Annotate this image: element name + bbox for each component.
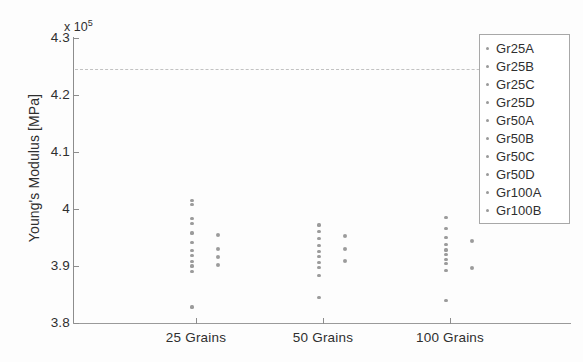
data-point	[216, 247, 220, 251]
y-tick-label-wrap: 4	[20, 201, 70, 217]
data-point	[444, 236, 447, 239]
legend-marker-dot-icon	[486, 83, 489, 86]
legend-item-gr50d[interactable]: Gr50D	[480, 165, 569, 183]
y-tick-mark	[74, 323, 79, 324]
legend-item-label: Gr25B	[496, 59, 534, 74]
data-point	[190, 203, 193, 206]
data-point	[444, 262, 447, 265]
legend-item-label: Gr25D	[496, 95, 535, 110]
data-point	[444, 227, 447, 230]
x-axis-line	[73, 323, 571, 324]
y-axis-line	[73, 37, 74, 324]
x-tick-label: 50 Grains	[263, 330, 383, 345]
scatter-chart-figure: x 105 Young's Modulus [MPa] 3.83.944.14.…	[0, 0, 583, 362]
y-tick-label: 4.3	[26, 30, 70, 45]
y-tick-label-wrap: 4.3	[20, 30, 70, 46]
legend-item-gr50b[interactable]: Gr50B	[480, 129, 569, 147]
data-point	[216, 233, 220, 237]
data-point	[317, 237, 320, 240]
legend-marker-dot-icon	[486, 191, 489, 194]
data-point	[317, 223, 320, 226]
legend-item-gr100b[interactable]: Gr100B	[480, 201, 569, 219]
y-tick-mark	[74, 266, 79, 267]
y-tick-mark	[74, 152, 79, 153]
y-tick-mark	[74, 209, 79, 210]
legend-item-gr50a[interactable]: Gr50A	[480, 111, 569, 129]
y-tick-label: 4	[26, 201, 70, 216]
data-point	[317, 261, 320, 264]
legend-item-label: Gr100A	[496, 185, 541, 200]
data-point	[317, 266, 320, 269]
data-point	[444, 269, 447, 272]
legend-item-gr25b[interactable]: Gr25B	[480, 57, 569, 75]
legend-marker-dot-icon	[486, 155, 489, 158]
x-tick-label: 100 Grains	[390, 330, 510, 345]
legend-item-gr25c[interactable]: Gr25C	[480, 75, 569, 93]
legend-item-gr100a[interactable]: Gr100A	[480, 183, 569, 201]
data-point	[470, 239, 474, 243]
data-point	[190, 270, 193, 273]
data-point	[470, 266, 474, 270]
data-point	[190, 305, 193, 308]
data-point	[317, 274, 320, 277]
y-axis-exponent-power: 5	[88, 18, 93, 28]
legend-marker-dot-icon	[486, 101, 489, 104]
data-point	[444, 216, 447, 219]
data-point	[190, 264, 193, 267]
y-tick-label: 3.9	[26, 258, 70, 273]
legend-marker-dot-icon	[486, 65, 489, 68]
data-point	[190, 254, 193, 257]
y-tick-label-wrap: 4.2	[20, 87, 70, 103]
y-tick-label-wrap: 4.1	[20, 144, 70, 160]
data-point	[216, 263, 220, 267]
legend-marker-dot-icon	[486, 47, 489, 50]
x-tick-label: 25 Grains	[136, 330, 256, 345]
legend-marker-dot-icon	[486, 173, 489, 176]
x-tick-mark	[450, 318, 451, 324]
legend-box[interactable]: Gr25AGr25BGr25CGr25DGr50AGr50BGr50CGr50D…	[479, 34, 570, 224]
data-point	[444, 253, 447, 256]
data-point	[317, 250, 320, 253]
data-point	[317, 296, 320, 299]
legend-marker-dot-icon	[486, 137, 489, 140]
y-tick-mark	[74, 38, 79, 39]
data-point	[190, 241, 193, 244]
data-point	[190, 222, 193, 225]
data-point	[317, 255, 320, 258]
data-point	[444, 243, 447, 246]
y-tick-label-wrap: 3.8	[20, 315, 70, 331]
legend-item-gr50c[interactable]: Gr50C	[480, 147, 569, 165]
legend-item-gr25d[interactable]: Gr25D	[480, 93, 569, 111]
data-point	[216, 255, 220, 259]
legend-item-label: Gr25C	[496, 77, 535, 92]
data-point	[343, 234, 347, 238]
y-tick-label: 4.1	[26, 144, 70, 159]
y-tick-label: 3.8	[26, 315, 70, 330]
legend-item-label: Gr50C	[496, 149, 535, 164]
data-point	[190, 249, 193, 252]
legend-item-label: Gr50A	[496, 113, 534, 128]
y-tick-mark	[74, 95, 79, 96]
data-point	[444, 248, 447, 251]
legend-item-label: Gr25A	[496, 41, 534, 56]
data-point	[190, 231, 193, 234]
data-point	[343, 259, 347, 263]
legend-item-label: Gr100B	[496, 203, 541, 218]
data-point	[444, 299, 447, 302]
data-point	[190, 217, 193, 220]
data-point	[190, 199, 193, 202]
x-tick-mark	[323, 318, 324, 324]
legend-item-label: Gr50D	[496, 167, 535, 182]
legend-item-gr25a[interactable]: Gr25A	[480, 39, 569, 57]
data-point	[444, 258, 447, 261]
data-point	[317, 244, 320, 247]
legend-marker-dot-icon	[486, 209, 489, 212]
legend-marker-dot-icon	[486, 119, 489, 122]
legend-item-label: Gr50B	[496, 131, 534, 146]
data-point	[343, 247, 347, 251]
data-point	[317, 230, 320, 233]
y-tick-label-wrap: 3.9	[20, 258, 70, 274]
data-point	[190, 260, 193, 263]
x-tick-mark	[196, 318, 197, 324]
y-tick-label: 4.2	[26, 87, 70, 102]
